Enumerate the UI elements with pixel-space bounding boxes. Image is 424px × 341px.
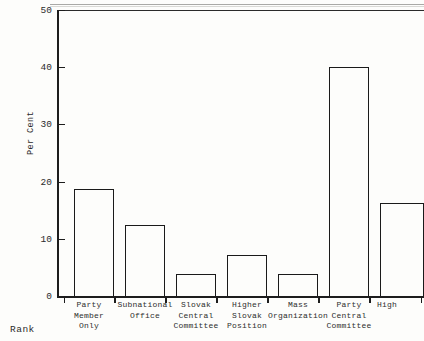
y-axis-tick-label: 40 xyxy=(30,63,52,73)
x-axis-category-label: High xyxy=(357,300,417,311)
bar xyxy=(125,225,165,297)
bar xyxy=(227,255,267,296)
scan-artifact-line-secondary xyxy=(50,6,424,7)
scan-artifact-line xyxy=(50,4,424,5)
bar-series xyxy=(57,10,424,297)
bar-chart-figure: 01020304050 Per Cent Party Member OnlySu… xyxy=(0,0,424,341)
x-axis-category-labels: Party Member OnlySubnational OfficeSlova… xyxy=(57,300,424,336)
bar xyxy=(278,274,318,296)
bar xyxy=(380,203,424,296)
bar xyxy=(74,189,114,296)
y-axis-tick-label: 20 xyxy=(30,178,52,188)
y-axis-tick-label: 10 xyxy=(30,235,52,245)
bar xyxy=(176,274,216,296)
y-axis-tick-label: 50 xyxy=(30,6,52,16)
x-axis-title: Rank xyxy=(10,324,35,335)
bar xyxy=(329,67,369,296)
y-axis-title: Per Cent xyxy=(26,98,36,168)
